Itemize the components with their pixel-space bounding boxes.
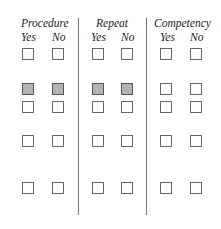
checkbox-row4-competency-no[interactable] [190, 135, 202, 147]
checkbox-row2-procedure-yes[interactable] [22, 83, 34, 95]
checkbox-row5-repeat-yes[interactable] [92, 182, 104, 194]
repeat-yes-label: Yes [91, 31, 106, 43]
checkbox-row3-competency-yes[interactable] [160, 101, 172, 113]
checkbox-row1-repeat-no[interactable] [121, 48, 133, 60]
checkbox-row2-competency-yes[interactable] [160, 83, 172, 95]
checkbox-row1-competency-yes[interactable] [160, 48, 172, 60]
checkbox-row5-competency-no[interactable] [190, 182, 202, 194]
checkbox-row2-repeat-no[interactable] [121, 83, 133, 95]
divider-procedure-repeat [78, 18, 79, 215]
checkbox-row4-procedure-no[interactable] [52, 135, 64, 147]
checkbox-row1-repeat-yes[interactable] [92, 48, 104, 60]
checkbox-row5-procedure-yes[interactable] [22, 182, 34, 194]
divider-repeat-competency [146, 18, 147, 215]
checkbox-row1-competency-no[interactable] [190, 48, 202, 60]
checkbox-row4-repeat-no[interactable] [121, 135, 133, 147]
checkbox-row1-procedure-no[interactable] [52, 48, 64, 60]
checkbox-row2-repeat-yes[interactable] [92, 83, 104, 95]
checkbox-row5-procedure-no[interactable] [52, 182, 64, 194]
checkbox-row4-procedure-yes[interactable] [22, 135, 34, 147]
checkbox-row4-repeat-yes[interactable] [92, 135, 104, 147]
group-title-procedure: Procedure [21, 17, 69, 29]
checkbox-row2-procedure-no[interactable] [52, 83, 64, 95]
group-title-repeat: Repeat [96, 17, 128, 29]
checkbox-row3-procedure-no[interactable] [52, 101, 64, 113]
competency-no-label: No [190, 31, 203, 43]
checkbox-row3-procedure-yes[interactable] [22, 101, 34, 113]
competency-yes-label: Yes [160, 31, 175, 43]
group-title-competency: Competency [154, 17, 211, 29]
checkbox-row1-procedure-yes[interactable] [22, 48, 34, 60]
checkbox-row5-competency-yes[interactable] [160, 182, 172, 194]
checkbox-row3-repeat-yes[interactable] [92, 101, 104, 113]
checkbox-row2-competency-no[interactable] [190, 83, 202, 95]
checkbox-row5-repeat-no[interactable] [121, 182, 133, 194]
repeat-no-label: No [121, 31, 134, 43]
checkbox-row3-competency-no[interactable] [190, 101, 202, 113]
checkbox-row4-competency-yes[interactable] [160, 135, 172, 147]
procedure-no-label: No [52, 31, 65, 43]
checkbox-row3-repeat-no[interactable] [121, 101, 133, 113]
procedure-yes-label: Yes [21, 31, 36, 43]
